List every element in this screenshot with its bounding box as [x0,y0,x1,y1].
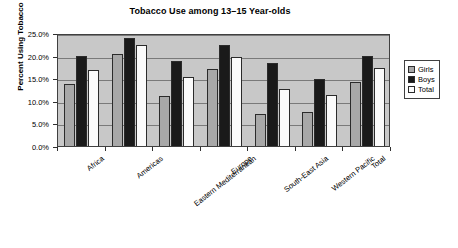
bar-group [296,35,344,146]
bar-girls [112,54,123,146]
y-axis-tick-label: 20.0% [28,52,49,61]
x-axis-tick-mark [247,147,248,151]
x-axis-tick-mark [152,147,153,151]
plot-area [57,34,390,147]
x-axis-tick-mark [105,147,106,151]
legend-item-boys[interactable]: Boys [408,75,435,84]
bar-boys [124,38,135,146]
bar-girls [255,114,266,146]
legend-item-total[interactable]: Total [408,85,435,94]
x-axis-tick-label: Americas [135,154,165,180]
x-axis: AfricaAmericasEastern MediterraneanEurop… [57,147,390,222]
bar-total [183,77,194,146]
bar-total [279,89,290,146]
bar-total [88,70,99,146]
x-axis-tick-label: Africa [85,154,106,173]
y-axis-tick-label: 25.0% [28,30,49,39]
bar-boys [76,56,87,146]
bar-group [343,35,391,146]
legend-swatch-icon [408,66,415,73]
x-axis-tick-mark [342,147,343,151]
bar-group [153,35,201,146]
chart-title: Tobacco Use among 13–15 Year-olds [0,6,420,16]
y-axis-tick-label: 0.0% [32,143,49,152]
x-axis-tick-mark [200,147,201,151]
bar-girls [159,96,170,146]
bar-group [201,35,249,146]
y-axis-tick-label: 10.0% [28,97,49,106]
legend-label: Total [418,85,434,94]
x-axis-tick-mark [390,147,391,151]
bars-layer [58,35,389,146]
bar-boys [219,45,230,146]
bar-girls [207,69,218,146]
bar-total [231,57,242,146]
bar-boys [267,63,278,146]
bar-boys [314,79,325,146]
y-axis-tick-label: 15.0% [28,75,49,84]
bar-chart-figure: Tobacco Use among 13–15 Year-olds Percen… [0,0,458,248]
x-axis-tick-label: Western Pacific [330,154,376,193]
x-axis-tick-mark [295,147,296,151]
legend-label: Boys [418,75,435,84]
chart-legend: GirlsBoysTotal [404,60,440,99]
bar-girls [302,112,313,146]
bar-girls [350,82,361,146]
legend-label: Girls [418,65,433,74]
bar-boys [171,61,182,146]
bar-total [136,45,147,146]
bar-total [326,95,337,146]
y-axis-tick-label: 5.0% [32,120,49,129]
bar-group [248,35,296,146]
legend-swatch-icon [408,76,415,83]
x-axis-tick-label: South-East Asia [282,154,330,194]
legend-swatch-icon [408,86,415,93]
y-axis: 0.0%5.0%10.0%15.0%20.0%25.0% [0,34,57,147]
bar-group [106,35,154,146]
bar-boys [362,56,373,146]
bar-total [374,68,385,146]
bar-group [58,35,106,146]
bar-girls [64,84,75,146]
legend-item-girls[interactable]: Girls [408,65,435,74]
x-axis-tick-mark [57,147,58,151]
